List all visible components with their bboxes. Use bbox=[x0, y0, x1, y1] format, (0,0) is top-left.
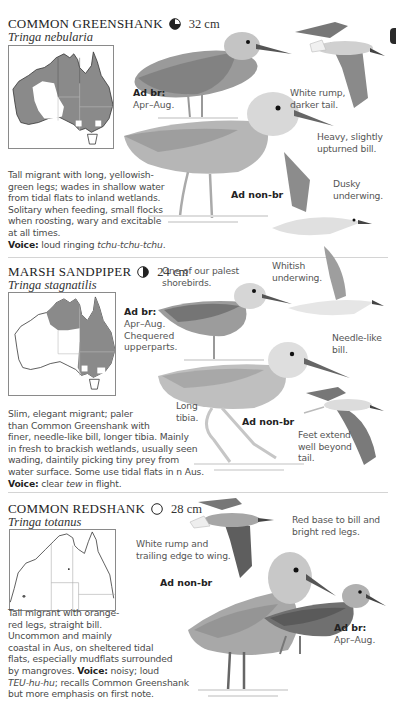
plumage-label-ad-br: Ad br: bbox=[124, 306, 156, 317]
note-palest-shorebirds: One of our palest shorebirds. bbox=[162, 265, 239, 288]
note-white-rump: White rump, darker tail. bbox=[290, 87, 345, 110]
section-divider bbox=[8, 492, 388, 493]
australia-map-icon bbox=[10, 530, 115, 610]
plumage-season: Apr–Aug. bbox=[334, 634, 375, 646]
note-heavy-bill: Heavy, slightly upturned bill. bbox=[317, 131, 383, 154]
plumage-label-ad-br: Ad br: bbox=[334, 622, 366, 633]
distribution-map bbox=[8, 292, 116, 396]
plumage-label-ad-non-br: Ad non-br bbox=[242, 416, 294, 427]
note-long-tibia: Long tibia. bbox=[176, 400, 198, 423]
plumage-label-ad-br: Ad br: bbox=[133, 87, 165, 98]
scientific-name: Tringa nebularia bbox=[8, 30, 93, 45]
empty-circle-icon bbox=[151, 503, 163, 515]
plumage-notes: Apr–Aug. Chequered upperparts. bbox=[124, 318, 177, 353]
section-thumb-tab bbox=[390, 28, 396, 44]
note-feet-extend: Feet extend well beyond tail. bbox=[298, 429, 352, 464]
distribution-map bbox=[8, 45, 114, 149]
scientific-name: Tringa totanus bbox=[8, 515, 81, 530]
distribution-map bbox=[9, 529, 116, 611]
australia-map-icon bbox=[9, 293, 115, 395]
scientific-name: Tringa stagnatilis bbox=[8, 278, 97, 293]
voice-line: Voice: loud ringing tchu-tchu-tchu. bbox=[8, 239, 165, 251]
note-needle-like-bill: Needle-like bill. bbox=[332, 332, 382, 355]
plumage-season: Apr–Aug. bbox=[133, 99, 174, 111]
note-white-rump-trailing-edge: White rump and trailing edge to wing. bbox=[136, 538, 231, 561]
half-filled-circle-icon bbox=[137, 266, 149, 278]
plumage-label-ad-non-br: Ad non-br bbox=[160, 577, 212, 588]
note-whitish-underwing: Whitish underwing. bbox=[272, 260, 322, 283]
australia-map-icon bbox=[9, 46, 113, 148]
bird-illustration-redshank-ad-br bbox=[256, 578, 386, 658]
note-dusky-underwing: Dusky underwing. bbox=[333, 178, 383, 201]
note-red-base-bill: Red base to bill and bright red legs. bbox=[292, 514, 380, 537]
species-description: Tall migrant with orange- red legs, stra… bbox=[8, 607, 189, 700]
plumage-label-ad-non-br: Ad non-br bbox=[231, 189, 283, 200]
voice-line: by mangroves. Voice: noisy; loud bbox=[8, 665, 189, 677]
voice-line: Voice: clear tew in flight. bbox=[8, 478, 204, 490]
